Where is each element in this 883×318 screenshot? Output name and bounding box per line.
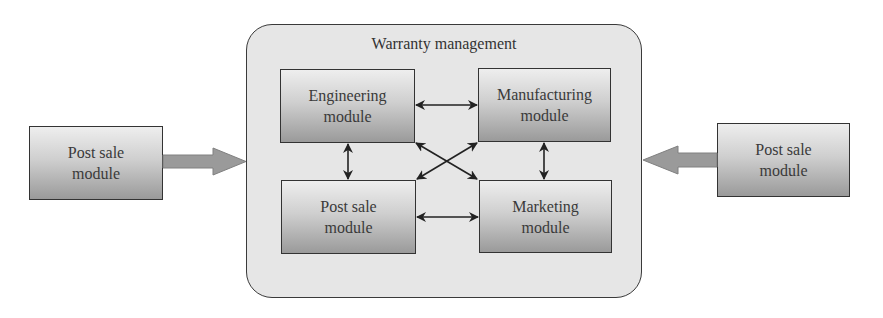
module-label-line1: Engineering (308, 85, 386, 106)
external-post-sale-module-left: Post sale module (29, 126, 163, 200)
module-label-line2: module (521, 105, 569, 126)
post-sale-module-inner: Post sale module (281, 180, 416, 254)
module-label-line1: Post sale (320, 196, 376, 217)
module-label-line2: module (324, 106, 372, 127)
container-title: Warranty management (247, 35, 641, 53)
left-block-arrow-icon (163, 148, 246, 175)
external-post-sale-module-right: Post sale module (717, 123, 850, 197)
right-block-arrow-icon (643, 146, 717, 174)
module-label-line1: Post sale (68, 142, 124, 163)
module-label-line1: Post sale (755, 139, 811, 160)
warranty-management-container: Warranty management (246, 24, 642, 298)
manufacturing-module: Manufacturing module (478, 68, 611, 142)
engineering-module: Engineering module (280, 69, 415, 143)
module-label-line2: module (72, 163, 120, 184)
module-label-line2: module (522, 217, 570, 238)
module-label-line2: module (325, 217, 373, 238)
module-label-line1: Manufacturing (497, 84, 592, 105)
module-label-line1: Marketing (512, 196, 579, 217)
module-label-line2: module (760, 160, 808, 181)
marketing-module: Marketing module (479, 180, 612, 253)
